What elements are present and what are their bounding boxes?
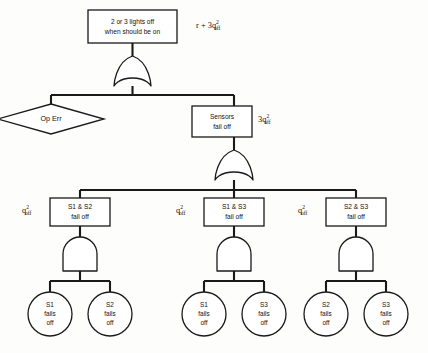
and-gate-s1-s3-shape[interactable] [217, 237, 251, 271]
pair-node-s2-s3[interactable]: S2 & S3 fail off [326, 198, 386, 226]
pair-s1s3-label-line2: fail off [225, 213, 243, 220]
top-event-probability: r + 3q2off [196, 19, 220, 31]
basic-event-s2-a-line2: fails [104, 310, 115, 317]
basic-event-s3-c[interactable]: S3 fails off [364, 292, 408, 336]
sensors-prob-sub: off [264, 119, 271, 125]
sensors-label-line2: fail off [213, 123, 231, 130]
sensors-or-gate[interactable] [215, 150, 253, 180]
pair-s1s2-label-line2: fail off [71, 213, 89, 220]
and-gate-s1-s3[interactable] [217, 237, 251, 271]
pair-s1s3-prob-sub: off [179, 210, 186, 216]
basic-event-s3-b-line1: S3 [260, 301, 268, 308]
basic-event-s3-b-line2: fails [258, 310, 269, 317]
pair-node-s1-s2[interactable]: S1 & S2 fail off [50, 198, 110, 226]
basic-event-s1-b-line3: off [201, 319, 208, 326]
sensors-fail-off-node[interactable]: Sensors fail off [192, 106, 252, 137]
basic-event-s3-b-line3: off [261, 319, 268, 326]
op-err-label: Op Err [40, 114, 62, 123]
pair-s1-s2-probability: q2off [22, 204, 32, 216]
basic-event-s2-a[interactable]: S2 fails off [88, 292, 132, 336]
svg-text:r + 3q2off: r + 3q2off [196, 19, 220, 31]
sensors-probability: 3q2off [258, 113, 271, 125]
basic-event-s2-c-line3: off [323, 319, 330, 326]
basic-event-s1-b-line1: S1 [200, 301, 208, 308]
pair-s2-s3-probability: q2off [298, 204, 308, 216]
and-gate-s1-s2[interactable] [63, 237, 97, 271]
pair-s2s3-label-line2: fail off [347, 213, 365, 220]
basic-event-s2-a-line3: off [107, 319, 114, 326]
and-gate-s1-s2-shape[interactable] [63, 237, 97, 271]
svg-text:q2off: q2off [22, 204, 32, 216]
top-event-label-line1: 2 or 3 lights off [111, 18, 154, 26]
basic-event-s2-c-line1: S2 [322, 301, 330, 308]
pair-s1-s3-probability: q2off [176, 204, 186, 216]
top-prob-sub: off [214, 25, 221, 31]
basic-event-s1-a-line2: fails [44, 310, 55, 317]
svg-text:q2off: q2off [176, 204, 186, 216]
top-or-gate[interactable] [114, 56, 151, 86]
sensors-fail-off-box[interactable] [192, 106, 252, 137]
basic-event-s1-a[interactable]: S1 fails off [28, 292, 72, 336]
pair-s2s3-label-line1: S2 & S3 [344, 203, 369, 210]
basic-event-s1-a-line3: off [47, 319, 54, 326]
and-gate-s2-s3[interactable] [339, 237, 373, 271]
basic-event-s1-b[interactable]: S1 fails off [182, 292, 226, 336]
pair-node-s1-s3[interactable]: S1 & S3 fail off [204, 198, 264, 226]
basic-event-s2-c[interactable]: S2 fails off [304, 292, 348, 336]
pair-s1s2-prob-sub: off [25, 210, 32, 216]
top-or-gate-shape[interactable] [114, 56, 151, 86]
basic-event-s3-c-line1: S3 [382, 301, 390, 308]
top-event-box[interactable] [88, 10, 177, 43]
basic-event-s3-c-line3: off [383, 319, 390, 326]
svg-text:3q2off: 3q2off [258, 113, 271, 125]
pair-s2s3-prob-sub: off [301, 210, 308, 216]
top-event-label-line2: when should be on [104, 28, 161, 35]
top-event-node[interactable]: 2 or 3 lights off when should be on [88, 10, 177, 43]
pair-s1s2-label-line1: S1 & S2 [68, 203, 93, 210]
basic-event-s2-c-line2: fails [320, 310, 331, 317]
fault-tree-diagram: 2 or 3 lights off when should be on r + … [0, 0, 428, 353]
sensors-or-gate-shape[interactable] [215, 150, 253, 180]
op-err-node[interactable]: Op Err [0, 104, 104, 134]
basic-event-s3-b[interactable]: S3 fails off [242, 292, 286, 336]
pair-s1s3-label-line1: S1 & S3 [222, 203, 247, 210]
and-gate-s2-s3-shape[interactable] [339, 237, 373, 271]
basic-event-s1-a-line1: S1 [46, 301, 54, 308]
svg-text:q2off: q2off [298, 204, 308, 216]
fault-tree-canvas: 2 or 3 lights off when should be on r + … [0, 0, 428, 353]
basic-event-s2-a-line1: S2 [106, 301, 114, 308]
basic-event-s3-c-line2: fails [380, 310, 391, 317]
sensors-label-line1: Sensors [210, 113, 235, 120]
basic-event-s1-b-line2: fails [198, 310, 209, 317]
